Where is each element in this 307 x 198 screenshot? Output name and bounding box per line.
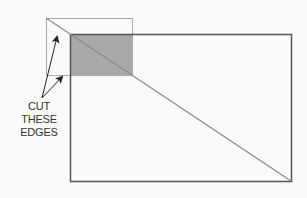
label-line-2: THESE (14, 113, 64, 126)
label-line-3: EDGES (14, 126, 64, 139)
cutting-diagram (0, 0, 307, 198)
label-line-1: CUT (14, 100, 64, 113)
arrow-to-top-edge (42, 37, 57, 98)
cut-these-edges-label: CUT THESE EDGES (14, 100, 64, 139)
diagonal-line (46, 18, 291, 181)
